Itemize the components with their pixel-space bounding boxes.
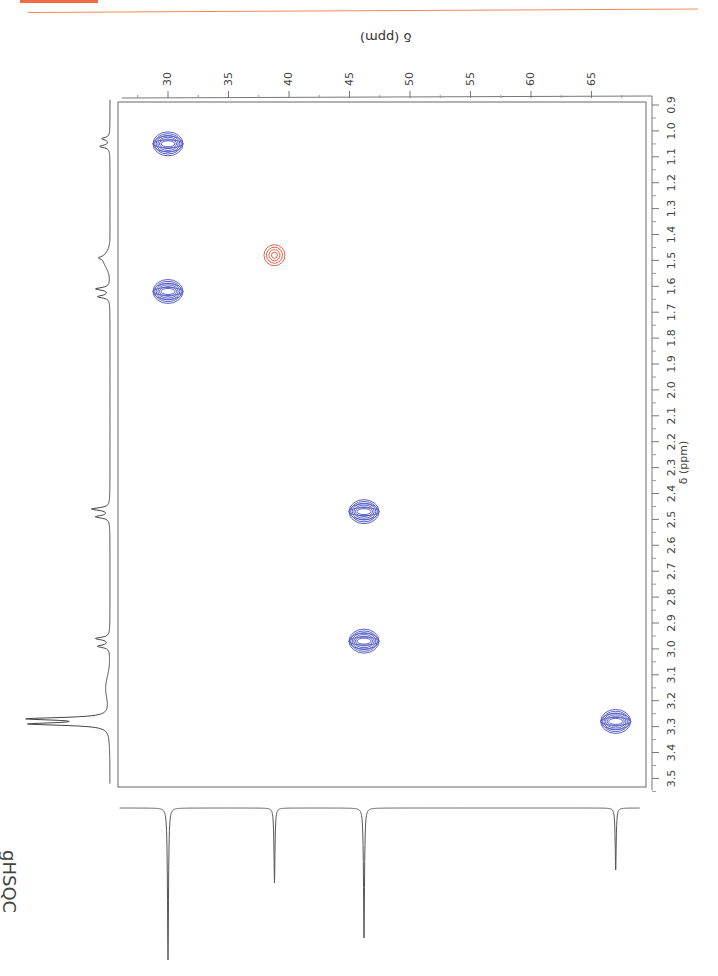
h1-axis-title: δ (ppm)	[677, 441, 690, 485]
h1-tick-label: 0.9	[665, 96, 678, 114]
h1-tick-label: 3.4	[665, 744, 678, 762]
h1-tick-label: 2.7	[665, 562, 678, 580]
h1-tick-label: 2.1	[665, 407, 678, 425]
h1-tick-label: 1.9	[665, 355, 678, 373]
h1-tick-label: 2.6	[665, 537, 678, 555]
positive-cross-peak	[153, 132, 183, 156]
h1-tick-label: 1.3	[665, 200, 678, 218]
positive-cross-peak	[153, 279, 183, 303]
positive-cross-peak	[349, 629, 379, 653]
h1-tick-label: 1.1	[665, 148, 678, 166]
c13-tick-label: 35	[222, 72, 235, 86]
h1-tick-label: 1.5	[665, 252, 678, 270]
c13-tick-label: 30	[161, 72, 174, 86]
h1-tick-label: 1.0	[665, 122, 678, 140]
h1-tick-label: 1.6	[665, 278, 678, 296]
h1-tick-label: 1.2	[665, 174, 678, 192]
h1-tick-label: 1.7	[665, 303, 678, 321]
plot-frame	[118, 102, 646, 787]
h1-projection-spectrum	[26, 100, 110, 784]
positive-cross-peak	[349, 500, 379, 524]
c13-projection-spectrum	[120, 808, 640, 960]
c13-tick-label: 55	[464, 72, 477, 86]
h1-tick-label: 2.5	[665, 511, 678, 529]
c13-tick-label: 50	[403, 72, 416, 86]
h1-tick-label: 3.0	[665, 640, 678, 658]
h1-tick-label: 2.4	[665, 485, 678, 503]
cross-peaks	[153, 132, 631, 734]
c13-axis-line	[122, 96, 652, 98]
h1-tick-label: 3.3	[665, 718, 678, 736]
positive-cross-peak	[601, 709, 631, 733]
hsqc-chart: 3035404550556065 0.91.01.11.21.31.41.51.…	[0, 0, 718, 976]
h1-axis: 0.91.01.11.21.31.41.51.61.71.81.92.02.12…	[652, 96, 678, 791]
h1-tick-label: 3.5	[665, 770, 678, 788]
h1-tick-label: 2.9	[665, 614, 678, 632]
c13-axis: 3035404550556065	[138, 72, 622, 98]
c13-tick-label: 40	[282, 72, 295, 86]
negative-cross-peak	[264, 245, 285, 266]
c13-tick-label: 65	[585, 72, 598, 86]
h1-tick-label: 1.4	[665, 226, 678, 244]
h1-tick-label: 2.0	[665, 381, 678, 399]
c13-tick-label: 45	[343, 72, 356, 86]
h1-tick-label: 3.1	[665, 666, 678, 684]
c13-tick-label: 60	[524, 72, 537, 86]
h1-tick-label: 3.2	[665, 692, 678, 710]
h1-tick-label: 2.8	[665, 588, 678, 606]
h1-tick-label: 1.8	[665, 329, 678, 347]
